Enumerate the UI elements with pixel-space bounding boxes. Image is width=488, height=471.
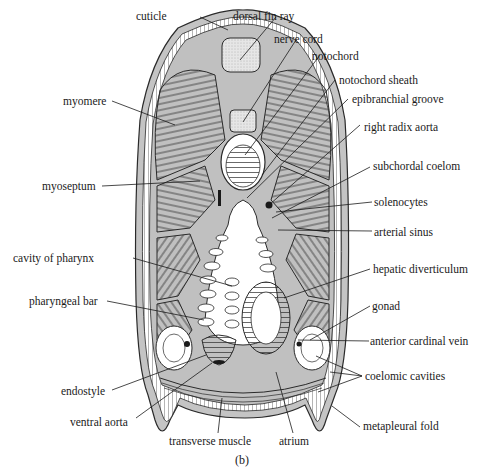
label-arterial-sinus: arterial sinus [374, 226, 433, 239]
label-atrium: atrium [279, 435, 309, 448]
label-anterior-cardinal-vein: anterior cardinal vein [370, 335, 468, 348]
amphioxus-cross-section-figure: cuticle dorsal fin ray nerve cord notoch… [0, 0, 488, 471]
label-cavity-of-pharynx: cavity of pharynx [13, 252, 94, 265]
label-subchordal-coelom: subchordal coelom [373, 160, 460, 173]
nerve-cord [230, 110, 256, 132]
label-notochord-sheath: notochord sheath [339, 74, 418, 87]
label-epibranchial-groove: epibranchial groove [352, 93, 444, 106]
label-hepatic-diverticulum: hepatic diverticulum [373, 263, 468, 276]
label-dorsal-fin-ray: dorsal fin ray [233, 10, 294, 23]
gonad-left [156, 326, 192, 370]
label-gonad: gonad [372, 300, 400, 313]
label-solenocytes: solenocytes [374, 196, 428, 209]
label-endostyle: endostyle [61, 385, 105, 398]
gonad-right [294, 326, 330, 370]
label-right-radix-aorta: right radix aorta [364, 121, 438, 134]
label-nerve-cord: nerve cord [274, 33, 323, 46]
label-ventral-aorta: ventral aorta [70, 416, 128, 429]
label-coelomic-cavities: coelomic cavities [365, 370, 445, 383]
label-metapleural-fold: metapleural fold [363, 420, 439, 433]
label-cuticle: cuticle [136, 10, 167, 23]
figure-caption: (b) [235, 453, 249, 468]
label-myoseptum: myoseptum [42, 180, 96, 193]
label-notochord: notochord [312, 50, 359, 63]
label-myomere: myomere [63, 95, 106, 108]
label-pharyngeal-bar: pharyngeal bar [29, 295, 98, 308]
label-transverse-muscle: transverse muscle [169, 435, 251, 448]
